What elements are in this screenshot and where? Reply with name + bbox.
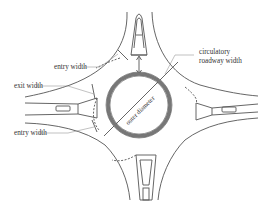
roundabout-diagram xyxy=(0,0,273,211)
exit-width-dim xyxy=(92,84,95,99)
east-island xyxy=(196,103,212,120)
entry-width-top-label: entry width xyxy=(54,63,87,71)
circulatory-label-line1: circulatory xyxy=(199,48,230,56)
north-island xyxy=(131,14,147,55)
circulatory-label-line2: roadway width xyxy=(199,57,242,65)
se-curb xyxy=(158,118,258,200)
south-island xyxy=(136,155,156,200)
exit-width-label: exit width xyxy=(14,82,43,90)
entry-width-bottom-label: entry width xyxy=(14,129,47,137)
west-island xyxy=(78,98,97,118)
